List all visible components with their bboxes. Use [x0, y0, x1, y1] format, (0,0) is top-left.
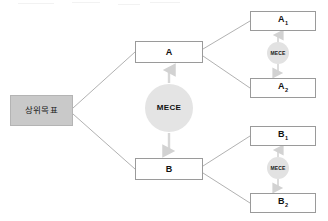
scan-artifact	[18, 3, 54, 4]
node-mece-center-label: MECE	[157, 104, 181, 112]
edge-b-to-b2	[203, 173, 250, 203]
scan-artifact	[150, 2, 180, 3]
node-a2-subscript: 2	[284, 87, 288, 93]
node-a1-label: A1	[278, 15, 288, 26]
node-b[interactable]: B	[135, 158, 203, 180]
node-a2-label: A2	[278, 82, 288, 93]
diagram-canvas: 상위목표 A B MECE A1 A2 B1 B2 MECE MECE	[0, 0, 328, 221]
node-a1-subscript: 1	[284, 20, 288, 26]
edge-root-to-b	[73, 114, 135, 169]
node-mece-b[interactable]: MECE	[267, 157, 289, 179]
node-root-goal-label: 상위목표	[25, 106, 59, 115]
node-a2[interactable]: A2	[250, 78, 316, 98]
node-root-goal[interactable]: 상위목표	[10, 95, 73, 126]
node-b2-subscript: 2	[284, 202, 288, 208]
node-b2-label: B2	[278, 197, 288, 208]
node-mece-b-label: MECE	[270, 166, 285, 171]
node-b2[interactable]: B2	[250, 193, 316, 213]
scan-artifact	[72, 2, 100, 3]
edge-a-to-a1	[203, 21, 250, 49]
node-a[interactable]: A	[135, 41, 203, 63]
node-mece-center[interactable]: MECE	[145, 84, 193, 132]
node-b1-subscript: 1	[284, 135, 288, 141]
node-a1[interactable]: A1	[250, 11, 316, 31]
node-b-label: B	[166, 165, 173, 174]
node-mece-a[interactable]: MECE	[267, 42, 289, 64]
node-b1[interactable]: B1	[250, 126, 316, 146]
edge-b-to-b1	[203, 136, 250, 166]
scan-artifact	[118, 4, 140, 5]
node-a-label: A	[166, 48, 173, 57]
node-mece-a-label: MECE	[270, 51, 285, 56]
edge-root-to-a	[73, 52, 135, 108]
node-b1-label: B1	[278, 130, 288, 141]
edge-a-to-a2	[203, 56, 250, 88]
